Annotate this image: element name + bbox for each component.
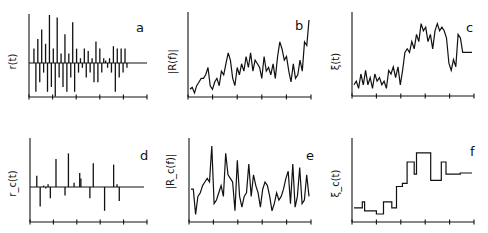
series-line	[191, 146, 309, 214]
ylabel-c: ξ(t)	[330, 47, 341, 77]
panel-f	[352, 138, 474, 225]
ylabel-d: r_c(t)	[7, 169, 18, 199]
panel-letter-b: b	[295, 18, 303, 33]
panel-letter-a: a	[136, 20, 144, 35]
panel-letter-e: e	[306, 148, 314, 163]
panel-e	[189, 138, 311, 225]
panel-b	[188, 12, 311, 100]
ylabel-e: |R_c(f)|	[165, 152, 176, 192]
panel-letter-f: f	[470, 144, 475, 159]
figure	[0, 0, 488, 233]
panel-letter-d: d	[140, 148, 148, 163]
panel-c	[352, 12, 474, 99]
ylabel-b: |R(f)|	[167, 42, 178, 82]
series-steps	[354, 153, 472, 214]
panel-letter-c: c	[466, 20, 473, 35]
series-line	[190, 20, 309, 93]
panel-d	[30, 138, 147, 225]
series-line	[354, 24, 472, 89]
ylabel-f: ξ_c(t)	[330, 169, 341, 199]
ylabel-a: r(t)	[7, 47, 18, 77]
panel-a	[29, 14, 147, 100]
